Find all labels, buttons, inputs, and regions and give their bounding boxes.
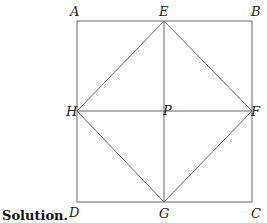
- label-e: E: [158, 4, 169, 19]
- label-h: H: [65, 104, 78, 119]
- segment-gh: [77, 111, 164, 202]
- segment-he: [77, 21, 164, 111]
- label-a: A: [69, 4, 79, 19]
- geometry-diagram: A E B H P F D G C Solution.: [0, 0, 267, 223]
- label-d: D: [68, 205, 80, 220]
- label-c: C: [251, 206, 261, 221]
- segment-fg: [164, 111, 252, 202]
- label-f: F: [250, 104, 261, 119]
- solution-caption: Solution.: [2, 208, 68, 223]
- segment-ef: [164, 21, 252, 111]
- label-p: P: [162, 103, 172, 118]
- label-b: B: [250, 4, 261, 19]
- label-g: G: [159, 206, 169, 221]
